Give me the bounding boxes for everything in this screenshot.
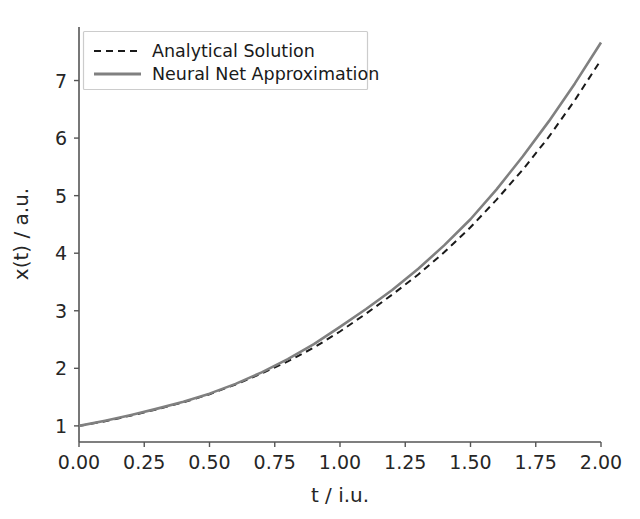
y-tick-label: 3 <box>55 300 67 322</box>
legend-label-neural-net-approximation: Neural Net Approximation <box>152 64 379 84</box>
y-tick-label: 1 <box>55 415 67 437</box>
legend: Analytical Solution Neural Net Approxima… <box>84 32 380 90</box>
x-tick-label: 0.25 <box>123 451 165 473</box>
x-tick-label: 0.50 <box>188 451 230 473</box>
line-chart: 0.000.250.500.751.001.251.501.752.00 123… <box>0 0 640 519</box>
y-tick-label: 4 <box>55 242 67 264</box>
y-tick-label: 7 <box>55 70 67 92</box>
figure-canvas: 0.000.250.500.751.001.251.501.752.00 123… <box>0 0 640 519</box>
x-axis-label: t / i.u. <box>311 483 369 507</box>
legend-label-analytical-solution: Analytical Solution <box>152 41 315 61</box>
y-tick-label: 2 <box>55 357 67 379</box>
y-tick-label: 6 <box>55 127 67 149</box>
x-tick-label: 2.00 <box>580 451 622 473</box>
x-tick-label: 1.00 <box>319 451 361 473</box>
x-tick-label: 1.25 <box>384 451 426 473</box>
x-tick-label: 1.50 <box>449 451 491 473</box>
y-axis-label: x(t) / a.u. <box>9 188 33 280</box>
x-tick-label: 0.00 <box>58 451 100 473</box>
x-tick-label: 0.75 <box>254 451 296 473</box>
x-tick-label: 1.75 <box>515 451 557 473</box>
y-tick-label: 5 <box>55 185 67 207</box>
